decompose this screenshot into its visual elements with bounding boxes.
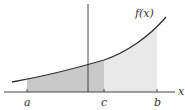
region-a-to-c [27, 60, 104, 92]
point-label-a: a [24, 96, 31, 109]
function-label: f(x) [134, 7, 154, 20]
x-axis-label: x [178, 85, 185, 98]
point-label-c: c [101, 96, 107, 109]
area-under-curve-diagram: f(x) x a c b [0, 0, 185, 110]
point-label-b: b [154, 96, 161, 109]
region-c-to-b [104, 28, 157, 92]
